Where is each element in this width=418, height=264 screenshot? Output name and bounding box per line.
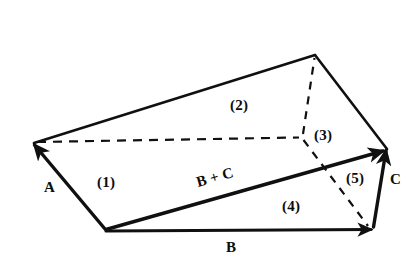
diagram-canvas (0, 0, 418, 264)
vector-diagram-figure: A B C B + C (1) (2) (3) (4) (5) (0, 0, 418, 264)
face-label-3: (3) (314, 128, 332, 143)
face-label-2: (2) (230, 98, 248, 113)
vector-label-b: B (226, 240, 236, 255)
edge-left-to-top-ridge (34, 55, 315, 143)
face-label-5: (5) (346, 171, 364, 186)
vector-label-a: A (44, 180, 55, 195)
dashed-back-vertical-edge (303, 58, 315, 134)
face-label-1: (1) (97, 175, 115, 190)
vector-b-line (106, 230, 371, 232)
vector-c-line (374, 151, 387, 228)
solid-edges-group (34, 55, 387, 231)
face-label-4: (4) (282, 199, 300, 214)
dashed-horizontal-back-edge (37, 138, 299, 143)
vector-label-c: C (390, 172, 401, 187)
